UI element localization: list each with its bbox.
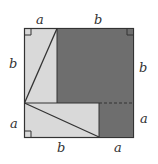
label-bottom-right: a [114,140,122,155]
pythagorean-diagram: a b b a b a b a [0,0,158,164]
label-top-left: a [36,12,44,27]
label-left-upper: b [9,56,17,71]
label-right-lower: a [140,111,148,126]
label-top-right: b [94,12,102,27]
label-bottom-left: b [57,140,65,155]
dark-square-a [99,103,133,137]
label-left-lower: a [10,116,18,131]
dark-square-b [57,29,133,103]
label-right-upper: b [139,60,147,75]
